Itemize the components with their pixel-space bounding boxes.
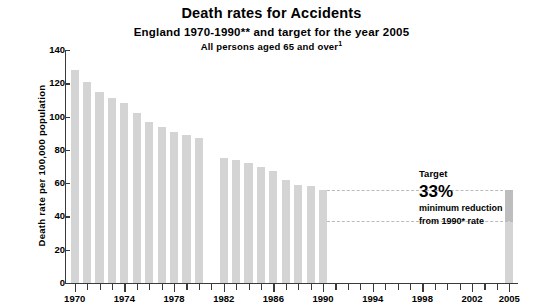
x-tick-label: 1982 [213,293,234,304]
x-tick-mark [211,284,212,290]
x-tick-mark [385,284,386,290]
target-bar-2005 [505,221,513,283]
bar [145,122,153,283]
x-tick-mark [75,284,76,292]
x-tick-mark [273,284,274,292]
x-tick-label: 1990 [312,293,333,304]
x-tick-mark [497,284,498,290]
bar [319,190,327,283]
bar [220,158,228,283]
y-tick-mark [65,150,70,151]
bar [195,138,203,283]
x-tick-mark [186,284,187,290]
bar [282,180,290,283]
y-tick-label: 60 [31,178,65,188]
bar [95,92,103,283]
y-tick-mark [65,50,70,51]
x-tick-mark [509,284,510,292]
chart-subtitle: England 1970-1990** and target for the y… [0,26,543,38]
x-tick-label: 1978 [163,293,184,304]
x-tick-mark [261,284,262,290]
target-annotation-line-1: minimum reduction [419,202,543,215]
x-tick-mark [174,284,175,292]
x-tick-mark [249,284,250,290]
x-tick-mark [286,284,287,290]
x-tick-mark [199,284,200,290]
x-tick-mark [360,284,361,290]
bar [244,163,252,283]
y-axis-label: Death rate per 100,000 population [36,56,47,276]
y-tick-label: 80 [31,145,65,155]
x-tick-mark [124,284,125,292]
x-tick-mark [298,284,299,290]
y-tick-mark [65,216,70,217]
x-tick-mark [137,284,138,290]
x-tick-mark [373,284,374,292]
x-tick-mark [422,284,423,292]
x-tick-mark [410,284,411,290]
chart-subtitle-secondary: All persons aged 65 and over1 [0,41,543,52]
x-tick-mark [224,284,225,292]
y-tick-mark [65,83,70,84]
y-tick-mark [65,117,70,118]
target-annotation-label: Target [419,168,543,180]
bar [133,113,141,283]
x-tick-label: 2005 [499,293,520,304]
y-tick-mark [65,250,70,251]
bar [120,103,128,283]
bar [83,82,91,283]
x-tick-mark [435,284,436,290]
bar [307,186,315,283]
bar [257,167,265,284]
x-tick-mark [348,284,349,290]
y-tick-mark [65,183,70,184]
chart-subtitle-footnote-marker: 1 [338,40,342,47]
x-axis-line [65,283,518,284]
x-tick-label: 1998 [412,293,433,304]
y-tick-mark [65,283,70,284]
x-tick-mark [162,284,163,290]
bar [108,98,116,283]
x-tick-mark [472,284,473,292]
x-tick-mark [484,284,485,290]
bar [182,135,190,283]
x-tick-label: 1974 [114,293,135,304]
x-tick-mark [87,284,88,290]
y-axis-line [65,50,66,283]
bar [232,160,240,283]
y-tick-label: 120 [31,78,65,88]
x-tick-label: 1986 [263,293,284,304]
y-tick-label: 20 [31,245,65,255]
target-annotation: Target 33% minimum reduction from 1990* … [419,168,543,228]
chart-title: Death rates for Accidents [0,5,543,21]
x-tick-label: 1970 [64,293,85,304]
y-tick-label: 40 [31,211,65,221]
y-tick-label: 100 [31,112,65,122]
x-tick-label: 1994 [362,293,383,304]
x-tick-mark [398,284,399,290]
bar [71,70,79,283]
bar [158,127,166,283]
x-tick-mark [112,284,113,290]
chart-subtitle-secondary-text: All persons aged 65 and over [201,41,339,52]
bar [170,132,178,283]
bar [269,171,277,283]
bar [294,185,302,283]
x-tick-mark [447,284,448,290]
x-tick-mark [236,284,237,290]
x-tick-mark [149,284,150,290]
x-tick-mark [311,284,312,290]
x-tick-mark [323,284,324,292]
x-tick-label: 2002 [461,293,482,304]
x-tick-mark [100,284,101,290]
y-tick-label: 140 [31,45,65,55]
x-tick-mark [335,284,336,290]
x-tick-mark [460,284,461,290]
chart-container: Death rates for Accidents England 1970-1… [0,0,543,308]
target-annotation-line-2: from 1990* rate [419,215,543,228]
y-tick-label: 0 [31,278,65,288]
target-annotation-value: 33% [419,181,543,202]
